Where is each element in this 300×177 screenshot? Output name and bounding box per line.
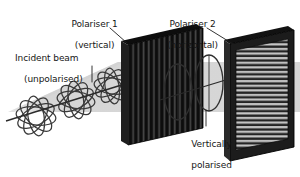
polariser-2-label-line1: Polariser 2 [169, 19, 215, 29]
polarised-wave-label-line2: polarised [191, 160, 231, 170]
polariser-1-label-line2: (vertical) [75, 40, 115, 50]
polariser-2-label-line2: (horizontal) [167, 40, 218, 50]
polariser-2-label: Polariser 2 (horizontal) [151, 8, 223, 61]
polariser-1-label-line1: Polariser 1 [71, 19, 117, 29]
polarised-wave-label-line1: Vertically [191, 139, 232, 149]
polariser-1-label: Polariser 1 (vertical) [56, 8, 122, 61]
incident-beam-label-line2: (unpolarised) [24, 74, 83, 85]
polarisation-diagram: Incident beam (unpolarised) Polariser 1 … [0, 0, 300, 177]
polarised-wave-label: Vertically polarised light wave [171, 128, 241, 177]
